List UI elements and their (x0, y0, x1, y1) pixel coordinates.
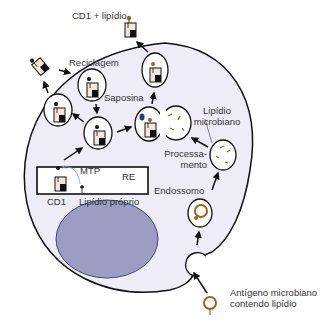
recycling-vesicle-left (44, 94, 72, 126)
cd1-in-er-icon (55, 177, 66, 191)
label-processing: Processa- mento (162, 148, 207, 170)
label-recycling: Reciclagem (69, 57, 119, 68)
label-endosome: Endossomo (154, 185, 204, 196)
recycling-vesicle-top (78, 69, 106, 101)
self-lipid-icon (56, 166, 60, 170)
endocytic-pit (186, 253, 206, 276)
cd1-vesicle-center (84, 117, 112, 149)
label-self-lipid: Lipídio próprio (79, 196, 139, 207)
label-microbial-antigen: Antígeno microbiano contendo lipídio (230, 287, 317, 309)
lysosome-fusion (135, 106, 191, 141)
label-saposin: Saposina (104, 92, 144, 103)
loaded-vesicle-top-right (142, 53, 168, 87)
label-cd1-lipid: CD1 + lipídio (72, 10, 127, 21)
label-microbial-lipid: Lipídio microbiano (192, 105, 242, 127)
self-lipid-icon (80, 185, 84, 189)
microbial-antigen-icon (204, 297, 216, 315)
saposin-icon (140, 114, 145, 121)
endosome (188, 199, 212, 227)
label-cd1: CD1 (47, 196, 66, 207)
surface-cd1-recycling-icon (28, 54, 49, 76)
label-er: RE (122, 171, 135, 182)
nucleus (56, 200, 158, 278)
label-mtp: MTP (80, 165, 100, 176)
processing-vesicle (210, 140, 236, 170)
